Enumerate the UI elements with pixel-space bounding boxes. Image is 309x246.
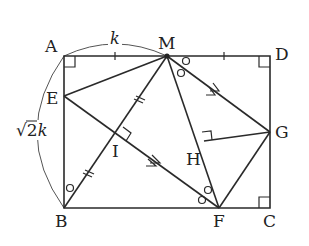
double-tick-IB-icon [83, 170, 94, 177]
point-M-dot [164, 53, 169, 58]
label-F: F [213, 211, 225, 231]
angle-mark-F2-icon [199, 197, 206, 204]
segment-ME [64, 56, 167, 96]
label-E: E [46, 88, 58, 108]
label-H: H [186, 149, 201, 169]
label-I: I [112, 141, 119, 161]
segment-MG [167, 56, 270, 132]
right-angle-A-icon [64, 56, 75, 67]
label-M: M [158, 33, 175, 53]
label-D: D [275, 44, 289, 64]
right-angle-H-icon [202, 131, 212, 140]
right-angle-D-icon [259, 56, 270, 67]
angle-mark-M2-icon [178, 70, 185, 77]
angle-mark-M1-icon [183, 58, 190, 65]
angle-mark-B-icon [67, 185, 74, 192]
segment-HG [204, 132, 270, 141]
label-B: B [55, 211, 68, 231]
label-G: G [275, 122, 289, 142]
label-C: C [263, 211, 276, 231]
label-A: A [44, 36, 58, 56]
rectangle-ABCD [64, 56, 270, 208]
angle-mark-F1-icon [205, 187, 212, 194]
label-k: k [110, 29, 120, 48]
segment-MB [64, 56, 167, 208]
right-angle-C-icon [259, 197, 270, 208]
geometry-diagram: A M D E I H G B F C k √2k [0, 0, 309, 246]
label-sqrt2k: √2k [16, 120, 47, 140]
